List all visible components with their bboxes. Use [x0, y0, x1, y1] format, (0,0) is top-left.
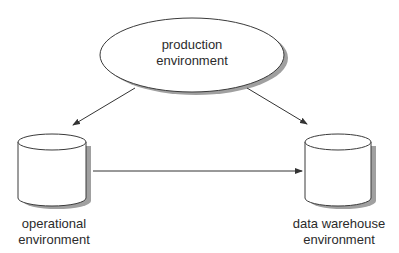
label-line: environment — [0, 232, 108, 248]
operational-environment-label: operational environment — [0, 216, 108, 248]
arrow-production-to-operational — [73, 88, 135, 125]
label-line: data warehouse — [283, 216, 395, 232]
operational-environment-cylinder — [18, 134, 91, 209]
label-line: environment — [132, 53, 252, 69]
data-warehouse-environment-label: data warehouse environment — [283, 216, 395, 248]
arrow-production-to-warehouse — [247, 88, 307, 124]
label-line: environment — [283, 232, 395, 248]
label-line: operational — [0, 216, 108, 232]
data-warehouse-cylinder — [305, 134, 376, 209]
production-environment-label: production environment — [132, 37, 252, 69]
label-line: production — [132, 37, 252, 53]
cylinder-top — [305, 134, 371, 150]
cylinder-top — [18, 134, 86, 150]
